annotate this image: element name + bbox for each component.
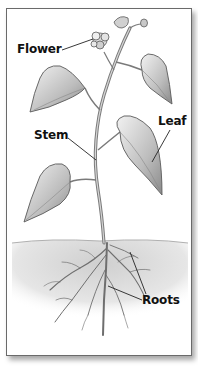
flower-drawing [91,17,148,49]
stem-label: Stem [34,129,68,141]
leaf-label: Leaf [158,115,186,127]
flower-leader-line [62,39,93,50]
roots-label: Roots [142,294,180,306]
stem-leader-line [68,138,96,160]
flower-label: Flower [17,43,62,55]
